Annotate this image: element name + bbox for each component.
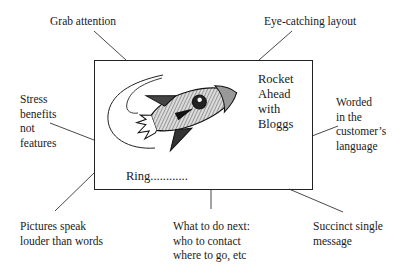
annotation-line: not: [20, 121, 56, 136]
annotation-eye-catching-layout: Eye-catching layout: [264, 14, 356, 29]
annotation-succinct-message: Succinct single message: [313, 219, 383, 248]
rocket-illustration: [100, 70, 250, 170]
annotation-line: Succinct single: [313, 219, 383, 234]
annotation-line: Stress: [20, 92, 56, 107]
connector-succinct: [289, 189, 343, 212]
annotation-worded-customer-language: Worded in the customer’s language: [336, 95, 386, 153]
connector-worded: [312, 126, 338, 136]
call-to-action: Ring............: [126, 169, 188, 184]
annotation-line: who to contact: [173, 234, 250, 249]
annotation-stress-benefits: Stress benefits not features: [20, 92, 56, 150]
annotation-grab-attention: Grab attention: [50, 14, 116, 29]
annotation-line: language: [336, 139, 386, 154]
annotation-line: in the: [336, 110, 386, 125]
connector-eye-catching: [259, 31, 292, 60]
annotation-line: features: [20, 136, 56, 151]
headline-line: with: [258, 102, 293, 117]
annotation-line: louder than words: [20, 234, 103, 249]
headline-line: Ahead: [258, 87, 293, 102]
annotation-line: where to go, etc: [173, 248, 250, 263]
annotation-line: benefits: [20, 107, 56, 122]
headline-line: Bloggs: [258, 117, 293, 132]
annotation-pictures-speak: Pictures speak louder than words: [20, 219, 103, 248]
annotation-line: What to do next:: [173, 219, 250, 234]
connector-grab-attention: [94, 31, 126, 60]
connector-pictures: [55, 173, 94, 211]
annotation-line: Worded: [336, 95, 386, 110]
ad-headline: Rocket Ahead with Bloggs: [258, 72, 293, 132]
connector-stress-benefits: [50, 123, 94, 140]
annotation-line: Pictures speak: [20, 219, 103, 234]
annotation-line: customer’s: [336, 124, 386, 139]
annotation-what-to-do-next: What to do next: who to contact where to…: [173, 219, 250, 263]
headline-line: Rocket: [258, 72, 293, 87]
annotation-line: message: [313, 234, 383, 249]
